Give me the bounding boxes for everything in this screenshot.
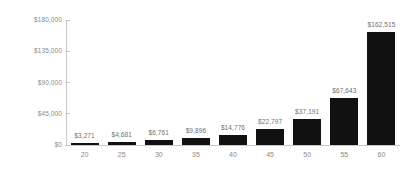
bar-group[interactable]: $162,515 [363, 20, 400, 145]
x-tick-label: 25 [103, 150, 140, 159]
bar-group[interactable]: $3,271 [66, 20, 103, 145]
bar-group[interactable]: $22,797 [252, 20, 289, 145]
y-tick-label: $135,000 [34, 46, 62, 56]
y-tick: $0 [0, 140, 74, 150]
y-tick: $90,000 [0, 78, 74, 88]
bar-value-label: $22,797 [258, 118, 282, 126]
x-tick-label: 40 [214, 150, 251, 159]
bar-value-label: $14,776 [221, 124, 245, 132]
bar-value-label: $9,896 [186, 127, 206, 135]
x-tick-label: 45 [252, 150, 289, 159]
x-tick-label: 55 [326, 150, 363, 159]
bar-group[interactable]: $14,776 [214, 20, 251, 145]
bar-group[interactable]: $4,681 [103, 20, 140, 145]
y-tick: $180,000 [0, 15, 74, 25]
bar-chart: $180,000$135,000$90,000$45,000$0 $3,271$… [0, 0, 410, 174]
bar-group[interactable]: $67,643 [326, 20, 363, 145]
bar-group[interactable]: $37,191 [289, 20, 326, 145]
bar-value-label: $4,681 [111, 131, 131, 139]
y-tick-label: $45,000 [38, 109, 62, 119]
bar-group[interactable]: $6,761 [140, 20, 177, 145]
bar[interactable] [219, 135, 247, 145]
x-tick-label: 20 [66, 150, 103, 159]
y-tick-label: $90,000 [38, 78, 62, 88]
bar-group[interactable]: $9,896 [177, 20, 214, 145]
y-tick: $135,000 [0, 46, 74, 56]
bar-value-label: $37,191 [295, 108, 319, 116]
y-tick-label: $180,000 [34, 15, 62, 25]
bar[interactable] [71, 143, 99, 145]
bar[interactable] [182, 138, 210, 145]
x-tick-label: 50 [289, 150, 326, 159]
plot-area: $3,271$4,681$6,761$9,896$14,776$22,797$3… [66, 20, 400, 145]
bar-value-label: $67,643 [332, 87, 356, 95]
x-tick-label: 60 [363, 150, 400, 159]
bar-value-label: $6,761 [149, 129, 169, 137]
bar[interactable] [108, 142, 136, 145]
x-tick-label: 30 [140, 150, 177, 159]
y-tick-label: $0 [55, 140, 62, 150]
bar[interactable] [330, 98, 358, 145]
bar[interactable] [145, 140, 173, 145]
bar-value-label: $162,515 [367, 21, 395, 29]
bar[interactable] [367, 32, 395, 145]
x-axis-line [66, 145, 400, 146]
bar-value-label: $3,271 [74, 132, 94, 140]
x-tick-label: 35 [177, 150, 214, 159]
bar[interactable] [293, 119, 321, 145]
y-tick: $45,000 [0, 109, 74, 119]
bar[interactable] [256, 129, 284, 145]
